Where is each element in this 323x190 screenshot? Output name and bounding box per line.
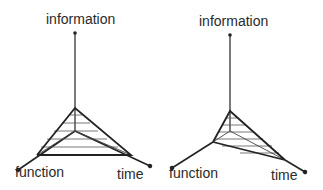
right-time-label: time [271, 168, 297, 182]
right-function-label: function [169, 166, 218, 180]
right-information-label: information [199, 14, 268, 28]
back-edge-right [75, 131, 131, 155]
left-function-label: function [15, 165, 64, 179]
hatch-lines [215, 118, 279, 153]
hatch-lines [41, 115, 118, 147]
diagram-canvas [0, 0, 323, 190]
left-diagram [18, 33, 150, 170]
left-time-label: time [117, 167, 143, 181]
left-information-label: information [46, 12, 115, 26]
back-edge-left [37, 131, 75, 155]
right-diagram [172, 35, 305, 172]
